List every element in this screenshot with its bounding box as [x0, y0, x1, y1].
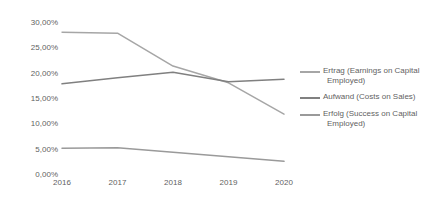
series-lines: [62, 22, 284, 174]
legend-item[interactable]: Ertrag (Earnings on CapitalEmployed): [300, 66, 436, 85]
y-axis-tick-label: 20,00%: [31, 68, 58, 77]
legend-line-swatch-icon: [300, 93, 320, 102]
legend-line-swatch-icon: [300, 67, 320, 76]
legend-item-label: Erfolg (Success on CapitalEmployed): [323, 109, 417, 128]
y-axis-tick-label: 10,00%: [31, 119, 58, 128]
x-axis-tick-label: 2017: [109, 178, 127, 188]
x-axis-tick-label: 2020: [275, 178, 293, 188]
legend-label-line2: Employed): [323, 119, 417, 129]
legend-line-swatch-icon: [300, 110, 320, 119]
y-axis-tick-label: 15,00%: [31, 94, 58, 103]
y-axis-tick-label: 25,00%: [31, 43, 58, 52]
legend-item[interactable]: Aufwand (Costs on Sales): [300, 92, 436, 102]
legend-label-line1: Ertrag (Earnings on Capital: [323, 66, 420, 75]
line-chart: 30,00%25,00%20,00%15,00%10,00%5,00%0,00%…: [0, 0, 440, 209]
y-axis-tick-label: 30,00%: [31, 18, 58, 27]
series-line: [62, 148, 284, 162]
chart-legend: Ertrag (Earnings on CapitalEmployed)Aufw…: [300, 66, 436, 135]
y-axis-tick-label: 5,00%: [35, 144, 58, 153]
y-axis: 30,00%25,00%20,00%15,00%10,00%5,00%0,00%: [8, 22, 58, 174]
x-axis-tick-label: 2016: [53, 178, 71, 188]
x-axis: 20162017201820192020: [62, 178, 284, 192]
x-axis-tick-label: 2019: [220, 178, 238, 188]
legend-label-line1: Aufwand (Costs on Sales): [323, 92, 416, 101]
legend-item-label: Aufwand (Costs on Sales): [323, 92, 416, 102]
legend-item[interactable]: Erfolg (Success on CapitalEmployed): [300, 109, 436, 128]
series-line: [62, 32, 284, 114]
legend-label-line1: Erfolg (Success on Capital: [323, 109, 417, 118]
x-axis-tick-label: 2018: [164, 178, 182, 188]
legend-item-label: Ertrag (Earnings on CapitalEmployed): [323, 66, 420, 85]
series-line: [62, 72, 284, 84]
plot-area: [62, 22, 284, 174]
legend-label-line2: Employed): [323, 76, 420, 86]
